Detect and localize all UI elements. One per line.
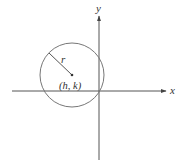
circle-diagram: r (h, k) x y bbox=[0, 0, 190, 163]
y-axis-label: y bbox=[95, 2, 101, 14]
radius-label: r bbox=[61, 53, 66, 65]
x-axis-label: x bbox=[169, 84, 175, 96]
center-label: (h, k) bbox=[59, 80, 82, 92]
center-point bbox=[71, 74, 74, 77]
